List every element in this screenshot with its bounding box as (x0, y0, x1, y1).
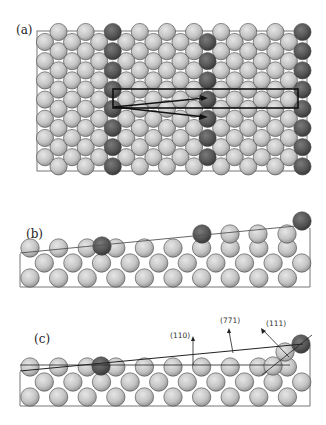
step-atom (92, 357, 110, 375)
arrowhead-icon (261, 328, 266, 334)
terrace-atom (92, 254, 110, 272)
terrace-atom (164, 269, 182, 287)
panel-c-label: (c) (34, 332, 50, 346)
terrace-atom (164, 239, 182, 257)
terrace-atom (293, 254, 311, 272)
step-atom (294, 62, 311, 79)
terrace-atom (21, 388, 39, 406)
terrace-atom (64, 254, 82, 272)
terrace-atom (293, 373, 311, 391)
step-atom (294, 100, 311, 117)
step-atom (294, 43, 311, 60)
terrace-atom (21, 269, 39, 287)
terrace-atom (135, 358, 153, 376)
terrace-atom (264, 254, 282, 272)
terrace-atom (64, 373, 82, 391)
terrace-atom (249, 225, 267, 243)
terrace-atom (178, 254, 196, 272)
terrace-atom (192, 358, 210, 376)
step-atom (104, 158, 121, 175)
step-atom (104, 119, 121, 136)
terrace-atom (235, 373, 253, 391)
atoms-panel-b (21, 212, 311, 287)
step-atom (104, 62, 121, 79)
terrace-atom (221, 269, 239, 287)
terrace-atom (164, 358, 182, 376)
terrace-atom (135, 269, 153, 287)
terrace-atom (192, 269, 210, 287)
terrace-atom (278, 269, 296, 287)
terrace-atom (221, 358, 239, 376)
terrace-atom (92, 373, 110, 391)
step-atom (294, 139, 311, 156)
step-atom (293, 212, 311, 230)
terrace-atom (49, 388, 67, 406)
panel-a-top-view: (a) (16, 23, 311, 175)
panel-b-side-view: (b) (20, 212, 311, 287)
terrace-atom (121, 254, 139, 272)
step-atom (294, 119, 311, 136)
step-atom (199, 33, 216, 50)
arrowhead-icon (191, 336, 195, 341)
terrace-atom (192, 388, 210, 406)
panel-a-label: (a) (16, 23, 33, 37)
terrace-atom (150, 254, 168, 272)
step-atom (199, 72, 216, 89)
terrace-atom (49, 269, 67, 287)
label-110: (110) (170, 331, 190, 340)
terrace-atom (21, 358, 39, 376)
terrace-atom (78, 269, 96, 287)
terrace-atom (235, 254, 253, 272)
step-atom (104, 23, 121, 40)
terrace-atom (250, 388, 268, 406)
panel-c-side-view: (c) (110) (771) (111) (20, 316, 312, 406)
terrace-atom (35, 373, 53, 391)
terrace-atom (35, 254, 53, 272)
step-atom (104, 139, 121, 156)
terrace-atom (78, 388, 96, 406)
terrace-atom (207, 373, 225, 391)
terrace-atom (150, 373, 168, 391)
step-atom (104, 43, 121, 60)
terrace-atom (264, 373, 282, 391)
label-771: (771) (220, 316, 240, 325)
step-atom (199, 129, 216, 146)
terrace-atom (107, 388, 125, 406)
terrace-atom (49, 239, 67, 257)
terrace-atom (21, 239, 39, 257)
atoms-panel-a (36, 23, 311, 175)
step-atom (294, 23, 311, 40)
step-atom (199, 53, 216, 70)
terrace-atom (207, 254, 225, 272)
terrace-atom (278, 388, 296, 406)
terrace-atom (121, 373, 139, 391)
step-atom (294, 158, 311, 175)
terrace-atom (221, 225, 239, 243)
terrace-atom (250, 269, 268, 287)
normal-771-arrow (229, 331, 233, 353)
terrace-atom (221, 388, 239, 406)
figure-canvas: (a) (b) (c) (110) (0, 0, 326, 425)
terrace-atom (178, 373, 196, 391)
terrace-atom (164, 388, 182, 406)
step-atom (199, 149, 216, 166)
label-111: (111) (266, 319, 286, 328)
terrace-atom (135, 388, 153, 406)
step-atom (193, 225, 211, 243)
arrowhead-icon (227, 328, 231, 333)
terrace-atom (107, 269, 125, 287)
